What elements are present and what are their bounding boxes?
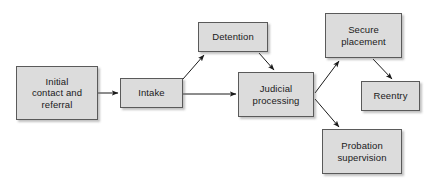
node-label-reentry: Reentry	[372, 90, 410, 102]
node-initial-contact[interactable]: Initial contact and referral	[16, 66, 98, 120]
node-label-probation-supervision: Probation supervision	[335, 140, 388, 163]
node-secure-placement[interactable]: Secure placement	[325, 13, 402, 58]
node-probation-supervision[interactable]: Probation supervision	[322, 129, 402, 174]
edge-judicial-to-secure-placement	[315, 61, 339, 93]
node-label-initial-contact: Initial contact and referral	[30, 76, 84, 111]
node-label-detention: Detention	[210, 31, 256, 43]
node-intake[interactable]: Intake	[120, 78, 183, 108]
node-judicial-processing[interactable]: Judicial processing	[238, 72, 314, 117]
node-reentry[interactable]: Reentry	[361, 81, 420, 111]
edge-judicial-to-probation	[315, 99, 339, 127]
node-label-judicial-processing: Judicial processing	[251, 83, 302, 106]
edge-secure-placement-to-reentry	[373, 59, 392, 79]
edge-intake-to-detention	[183, 55, 204, 79]
edge-detention-to-judicial	[259, 53, 274, 70]
node-label-secure-placement: Secure placement	[339, 24, 388, 47]
node-label-intake: Intake	[136, 87, 166, 99]
node-detention[interactable]: Detention	[198, 22, 268, 52]
flowchart-diagram: Initial contact and referral Intake Dete…	[0, 0, 438, 183]
